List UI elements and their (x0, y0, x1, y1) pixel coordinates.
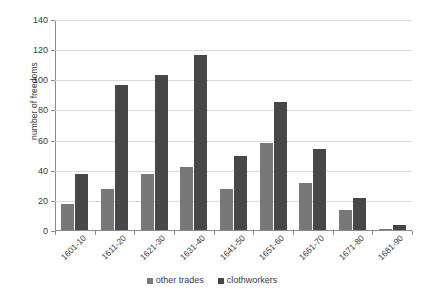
bar-clothworkers-1641-50 (234, 156, 247, 230)
bar-clothworkers-1671-80 (353, 198, 366, 230)
bar-other-trades-1601-10 (61, 204, 74, 230)
y-tick-mark (51, 110, 55, 111)
bar-clothworkers-1631-40 (194, 55, 207, 230)
chart-legend: other tradesclothworkers (0, 276, 424, 285)
x-tick-label: 1621-30 (132, 233, 167, 268)
bar-clothworkers-1651-60 (274, 102, 287, 230)
bar-other-trades-1641-50 (220, 189, 233, 230)
x-tick-label: 1651-60 (251, 233, 286, 268)
y-tick-mark (51, 80, 55, 81)
y-tick-label: 40 (22, 166, 48, 175)
y-tick-label: 80 (22, 106, 48, 115)
y-tick-mark (51, 201, 55, 202)
y-tick-label: 60 (22, 136, 48, 145)
gridline (55, 50, 412, 51)
gridline (55, 141, 412, 142)
bar-clothworkers-1611-20 (115, 85, 128, 230)
x-tick-label: 1601-10 (53, 233, 88, 268)
y-tick-label: 100 (22, 76, 48, 85)
plot-area (55, 20, 412, 231)
bar-other-trades-1621-30 (141, 174, 154, 230)
gridline (55, 110, 412, 111)
bar-clothworkers-1681-90 (393, 225, 406, 230)
legend-swatch-icon (218, 278, 224, 284)
legend-swatch-icon (147, 278, 153, 284)
y-tick-mark (51, 171, 55, 172)
x-axis-tick-labels: 1601-101611-201621-301631-401641-501651-… (55, 233, 412, 275)
bar-other-trades-1651-60 (260, 143, 273, 230)
y-tick-label: 0 (22, 227, 48, 236)
x-tick-label: 1671-80 (330, 233, 365, 268)
bar-clothworkers-1621-30 (155, 75, 168, 230)
gridline (55, 20, 412, 21)
x-tick-label: 1611-20 (92, 233, 127, 268)
y-tick-mark (51, 141, 55, 142)
x-tick-label: 1661-70 (291, 233, 326, 268)
bar-chart: number of freedoms 020406080100120140 16… (0, 0, 424, 296)
bar-other-trades-1611-20 (101, 189, 114, 230)
legend-label: other trades (156, 276, 204, 285)
bar-clothworkers-1661-70 (313, 149, 326, 230)
x-tick-label: 1631-40 (172, 233, 207, 268)
legend-label: clothworkers (227, 276, 278, 285)
x-tick-mark (412, 231, 413, 235)
gridline (55, 80, 412, 81)
legend-item-other-trades: other trades (147, 276, 204, 285)
y-tick-label: 20 (22, 196, 48, 205)
x-axis-line (55, 230, 412, 231)
legend-item-clothworkers: clothworkers (218, 276, 278, 285)
x-tick-label: 1681-90 (370, 233, 405, 268)
y-axis-tick-labels: 020406080100120140 (22, 20, 48, 231)
y-tick-mark (51, 50, 55, 51)
bar-other-trades-1671-80 (339, 210, 352, 230)
bar-clothworkers-1601-10 (75, 174, 88, 230)
bar-other-trades-1661-70 (299, 183, 312, 230)
y-tick-label: 140 (22, 16, 48, 25)
y-tick-label: 120 (22, 46, 48, 55)
bar-other-trades-1681-90 (379, 229, 392, 231)
y-tick-mark (51, 20, 55, 21)
x-tick-label: 1641-50 (211, 233, 246, 268)
bar-other-trades-1631-40 (180, 167, 193, 230)
